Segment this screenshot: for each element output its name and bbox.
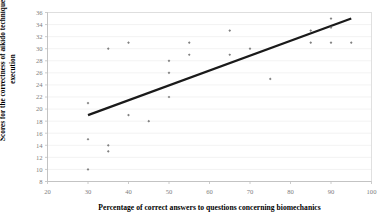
x-tick-label: 50 xyxy=(158,188,180,195)
y-tick-label: 18 xyxy=(27,118,43,125)
x-tick-label: 30 xyxy=(77,188,99,195)
x-tick-label: 90 xyxy=(320,188,342,195)
y-tick-label: 32 xyxy=(27,33,43,40)
y-tick-label: 10 xyxy=(27,166,43,173)
x-tick-label: 20 xyxy=(37,188,59,195)
scatter-chart: Scores for the correctness of aikido tec… xyxy=(0,0,379,223)
y-tick-label: 20 xyxy=(27,105,43,112)
x-tick-label: 100 xyxy=(361,188,379,195)
y-tick-label: 28 xyxy=(27,57,43,64)
y-tick-label: 24 xyxy=(27,81,43,88)
y-tick-label: 14 xyxy=(27,142,43,149)
y-tick-label: 26 xyxy=(27,69,43,76)
y-tick-label: 36 xyxy=(27,9,43,16)
y-tick-label: 34 xyxy=(27,21,43,28)
x-tick-label: 80 xyxy=(280,188,302,195)
y-tick-label: 12 xyxy=(27,154,43,161)
x-tick-label: 60 xyxy=(199,188,221,195)
x-tick-label: 40 xyxy=(118,188,140,195)
x-axis-label: Percentage of correct answers to questio… xyxy=(47,203,372,212)
y-tick-label: 16 xyxy=(27,130,43,137)
y-tick-label: 8 xyxy=(27,178,43,185)
y-tick-label: 30 xyxy=(27,45,43,52)
x-tick-label: 70 xyxy=(239,188,261,195)
y-tick-label: 22 xyxy=(27,93,43,100)
